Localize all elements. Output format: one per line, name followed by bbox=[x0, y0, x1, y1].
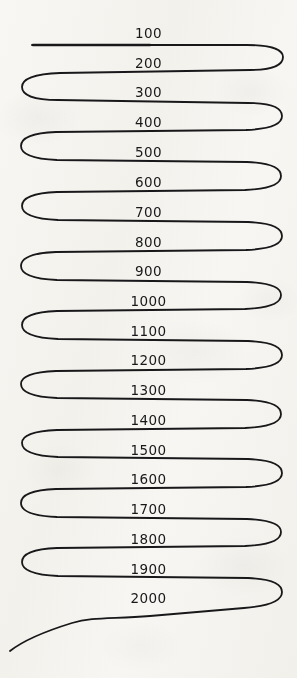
serpentine-line-layer bbox=[0, 0, 297, 678]
serpentine-line bbox=[10, 45, 283, 651]
drawing-sheet: 1002003004005006007008009001000110012001… bbox=[0, 0, 297, 678]
